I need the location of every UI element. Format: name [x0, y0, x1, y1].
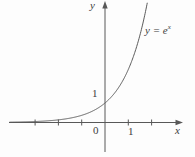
exp-curve — [9, 3, 147, 122]
y-axis-arrow-icon — [102, 1, 107, 9]
origin-label: 0 — [93, 125, 99, 136]
y-axis — [102, 1, 107, 152]
curve-label: y = ex — [145, 25, 171, 36]
curve-label-exponent: x — [168, 23, 171, 31]
x-axis-label: x — [175, 125, 180, 136]
exponential-function-figure: y x 0 1 1 y = ex — [0, 0, 195, 157]
y-tick-label-1: 1 — [92, 88, 98, 99]
y-axis-label: y — [90, 0, 95, 11]
curve-label-base: y = e — [145, 24, 168, 36]
x-tick-label-1: 1 — [128, 126, 134, 137]
